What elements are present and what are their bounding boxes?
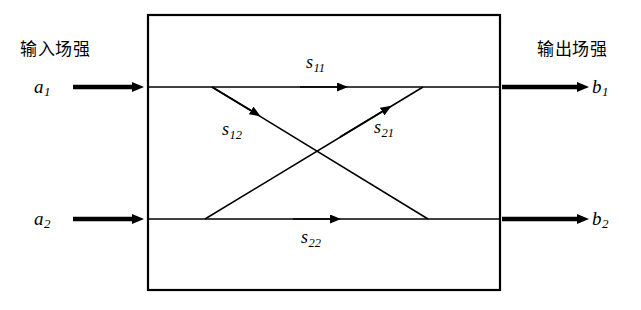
s-param-label-s21: s21 <box>374 118 394 139</box>
port-label-a2: a2 <box>34 209 51 230</box>
s12-base: s <box>222 119 229 139</box>
port-b2-base: b <box>592 208 602 229</box>
s11-sub: 11 <box>313 61 325 75</box>
s21-base: s <box>374 117 381 137</box>
output-field-strength-label: 输出场强 <box>537 41 607 58</box>
port-a2-base: a <box>34 208 44 229</box>
s21-sub: 21 <box>381 126 394 140</box>
s-param-label-s22: s22 <box>301 228 321 249</box>
s-param-label-s12: s12 <box>222 120 242 141</box>
diagram-canvas: 输入场强 输出场强 a1 a2 b1 b2 s11 s12 s21 s22 <box>0 0 641 310</box>
port-b2-sub: 2 <box>602 216 609 231</box>
port-b1-base: b <box>592 76 602 97</box>
port-a1-base: a <box>34 76 44 97</box>
port-b1-sub: 1 <box>602 84 609 99</box>
s-param-label-s11: s11 <box>306 53 325 74</box>
s12-direction-arrow <box>212 87 252 111</box>
input-field-strength-label: 输入场强 <box>20 41 90 58</box>
s22-base: s <box>301 227 308 247</box>
s11-base: s <box>306 52 313 72</box>
s22-sub: 22 <box>308 236 321 250</box>
port-a2-sub: 2 <box>44 216 51 231</box>
port-label-a1: a1 <box>34 77 51 98</box>
s21-path-line <box>205 87 423 219</box>
port-label-b2: b2 <box>592 209 609 230</box>
s12-sub: 12 <box>229 128 242 142</box>
port-a1-sub: 1 <box>44 84 51 99</box>
port-label-b1: b1 <box>592 77 609 98</box>
